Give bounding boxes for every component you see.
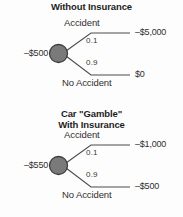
payoff-label-accident: –$5,000 bbox=[135, 27, 166, 37]
branch-line-no-accident bbox=[66, 56, 130, 75]
branch-label-accident: Accident bbox=[64, 129, 100, 140]
chance-node-circle bbox=[50, 157, 68, 175]
branch-line-no-accident bbox=[66, 168, 130, 187]
payoff-label-no-accident: –$500 bbox=[135, 181, 159, 191]
payoff-label-accident: –$1,000 bbox=[135, 139, 166, 149]
branch-line-accident bbox=[66, 145, 130, 163]
root-value-with-insurance: –$550 bbox=[8, 160, 48, 170]
branch-label-no-accident: No Accident bbox=[62, 189, 112, 200]
probability-label-accident: 0.1 bbox=[86, 148, 98, 157]
probability-label-no-accident: 0.9 bbox=[86, 170, 98, 179]
probability-label-no-accident: 0.9 bbox=[86, 58, 98, 67]
probability-label-accident: 0.1 bbox=[86, 36, 98, 45]
chance-node-circle bbox=[50, 45, 68, 63]
tree-with-insurance: Car "Gamble" With Insurance –$550 Accide… bbox=[0, 108, 183, 217]
payoff-label-no-accident: $0 bbox=[135, 69, 145, 79]
root-value-without-insurance: –$500 bbox=[8, 48, 48, 58]
branch-label-accident: Accident bbox=[64, 17, 100, 28]
decision-tree-figure: Without Insurance –$500 Accident 0.1 0.9… bbox=[0, 0, 183, 217]
branch-line-accident bbox=[66, 33, 130, 51]
branch-label-no-accident: No Accident bbox=[62, 77, 112, 88]
tree-without-insurance: Without Insurance –$500 Accident 0.1 0.9… bbox=[0, 0, 183, 100]
